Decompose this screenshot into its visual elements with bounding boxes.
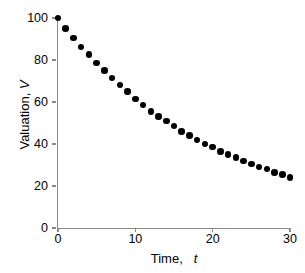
- y-axis-tick-label-wrap: 60: [14, 96, 48, 108]
- data-point: [271, 169, 278, 176]
- x-axis-label-variable: t: [194, 251, 198, 266]
- y-axis-tick: [52, 185, 56, 186]
- data-point: [287, 174, 294, 181]
- x-axis-tick-label: 30: [270, 233, 305, 246]
- data-point: [186, 132, 193, 139]
- x-axis-label-text: Time,: [151, 251, 183, 266]
- data-point: [240, 158, 247, 165]
- y-axis-tick: [52, 227, 56, 228]
- data-point: [248, 161, 255, 168]
- y-axis-tick: [52, 143, 56, 144]
- data-point: [209, 144, 216, 151]
- x-axis-tick-label: 0: [38, 233, 78, 246]
- x-axis-label: Time, t: [58, 251, 290, 266]
- data-point: [256, 164, 263, 171]
- y-axis-line: [57, 17, 58, 229]
- x-axis-tick-label: 10: [115, 233, 155, 246]
- data-point: [78, 44, 85, 51]
- data-point: [124, 88, 131, 95]
- y-axis-tick-label: 40: [14, 138, 48, 151]
- y-axis-tick-label-wrap: 100: [14, 12, 48, 24]
- data-point: [109, 75, 116, 82]
- y-axis-tick-label: 60: [14, 96, 48, 109]
- data-point: [233, 154, 240, 161]
- data-point: [264, 166, 271, 173]
- data-point: [117, 82, 124, 89]
- y-axis-tick-label-wrap: 40: [14, 138, 48, 150]
- y-axis-label: Valuation, V: [14, 0, 34, 230]
- data-point: [86, 51, 93, 58]
- y-axis-tick-label-wrap: 20: [14, 180, 48, 192]
- data-point: [62, 25, 69, 32]
- data-point: [171, 123, 178, 130]
- data-point: [163, 118, 170, 125]
- data-point: [140, 102, 147, 109]
- y-axis-tick-label: 100: [14, 12, 48, 25]
- data-point: [155, 113, 162, 120]
- y-axis-tick-label: 20: [14, 180, 48, 193]
- y-axis-tick-label: 80: [14, 54, 48, 67]
- discounting-chart-figure: Valuation, V Time, t 0204060801000102030: [0, 0, 305, 273]
- y-axis-label-variable: V: [17, 80, 32, 89]
- data-point: [132, 96, 139, 103]
- data-point: [70, 35, 77, 42]
- data-point: [93, 60, 100, 67]
- y-axis-tick: [52, 101, 56, 102]
- data-point: [202, 141, 209, 148]
- data-point: [279, 171, 286, 178]
- y-axis-tick: [52, 59, 56, 60]
- data-point: [55, 15, 62, 22]
- data-point: [194, 137, 201, 144]
- x-axis-line: [57, 228, 289, 229]
- data-point: [178, 128, 185, 135]
- x-axis-tick-label: 20: [193, 233, 233, 246]
- y-axis-tick-label-wrap: 80: [14, 54, 48, 66]
- data-point: [225, 151, 232, 158]
- data-point: [217, 148, 224, 155]
- data-point: [148, 108, 155, 115]
- data-point: [101, 67, 108, 74]
